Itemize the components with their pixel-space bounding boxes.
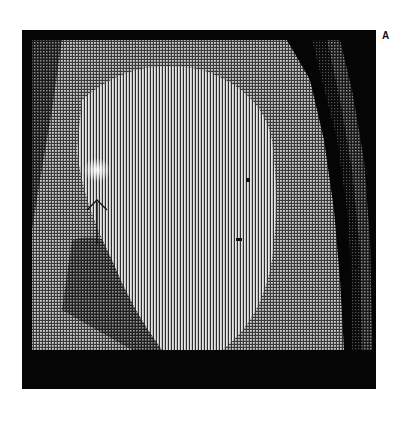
figure: A <box>0 0 398 442</box>
marker <box>246 178 250 182</box>
marker <box>236 238 242 241</box>
mri-scan-graphic <box>22 30 376 389</box>
bright-lesion <box>83 158 111 182</box>
marker <box>353 267 358 270</box>
panel-label: A <box>382 30 389 41</box>
mri-scan-image <box>22 30 376 389</box>
